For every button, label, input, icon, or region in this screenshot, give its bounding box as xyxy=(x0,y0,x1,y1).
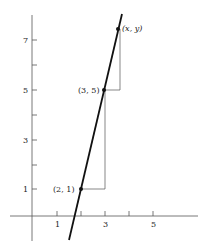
y-tick-label-7: 7 xyxy=(23,36,28,45)
coordinate-diagram: 1 3 5 7 5 3 1 (2, 1) (3, 5) (x, y) xyxy=(0,0,208,251)
point-x-y xyxy=(116,27,120,31)
y-tick-label-1: 1 xyxy=(23,185,28,194)
x-tick-label-3: 3 xyxy=(103,220,108,229)
x-tick-label-5: 5 xyxy=(151,220,156,229)
y-tick-label-5: 5 xyxy=(23,86,28,95)
x-ticks xyxy=(57,211,153,216)
point-label-3-5: (3, 5) xyxy=(78,86,100,95)
point-2-1 xyxy=(79,187,83,191)
y-ticks xyxy=(32,40,37,189)
x-tick-label-1: 1 xyxy=(55,220,60,229)
point-label-x-y: (x, y) xyxy=(122,24,142,33)
main-line xyxy=(69,14,122,240)
point-label-2-1: (2, 1) xyxy=(53,185,75,194)
point-3-5 xyxy=(102,88,106,92)
y-tick-label-3: 3 xyxy=(23,136,28,145)
